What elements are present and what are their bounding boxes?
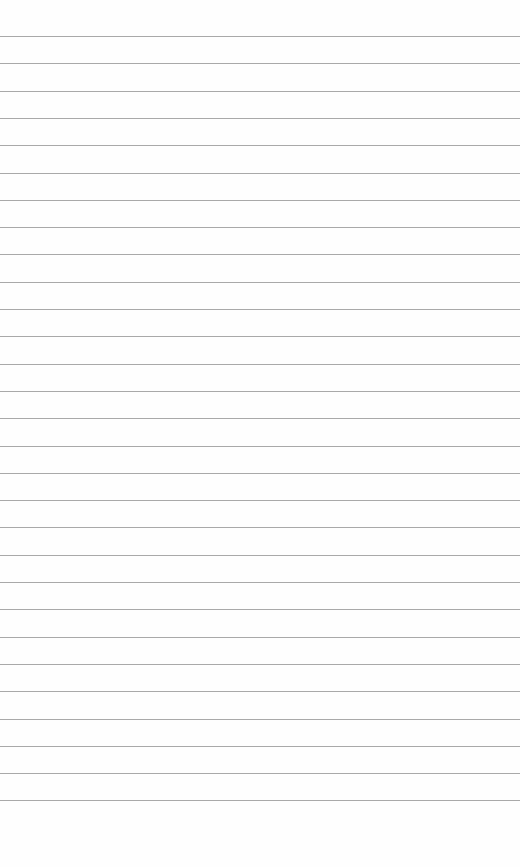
ruled-line [0,691,520,692]
ruled-line [0,555,520,556]
ruled-line [0,664,520,665]
lined-paper [0,0,520,867]
ruled-line [0,391,520,392]
ruled-line [0,36,520,37]
ruled-line [0,118,520,119]
ruled-line [0,582,520,583]
ruled-line [0,145,520,146]
ruled-line [0,63,520,64]
ruled-line [0,500,520,501]
ruled-line [0,800,520,801]
ruled-line [0,309,520,310]
ruled-line [0,527,520,528]
ruled-line [0,773,520,774]
ruled-line [0,254,520,255]
ruled-line [0,200,520,201]
ruled-line [0,173,520,174]
ruled-line [0,418,520,419]
ruled-line [0,91,520,92]
ruled-line [0,227,520,228]
ruled-line [0,609,520,610]
ruled-line [0,719,520,720]
ruled-line [0,364,520,365]
ruled-line [0,637,520,638]
ruled-line [0,336,520,337]
ruled-line [0,446,520,447]
ruled-line [0,282,520,283]
ruled-line [0,473,520,474]
ruled-line [0,746,520,747]
